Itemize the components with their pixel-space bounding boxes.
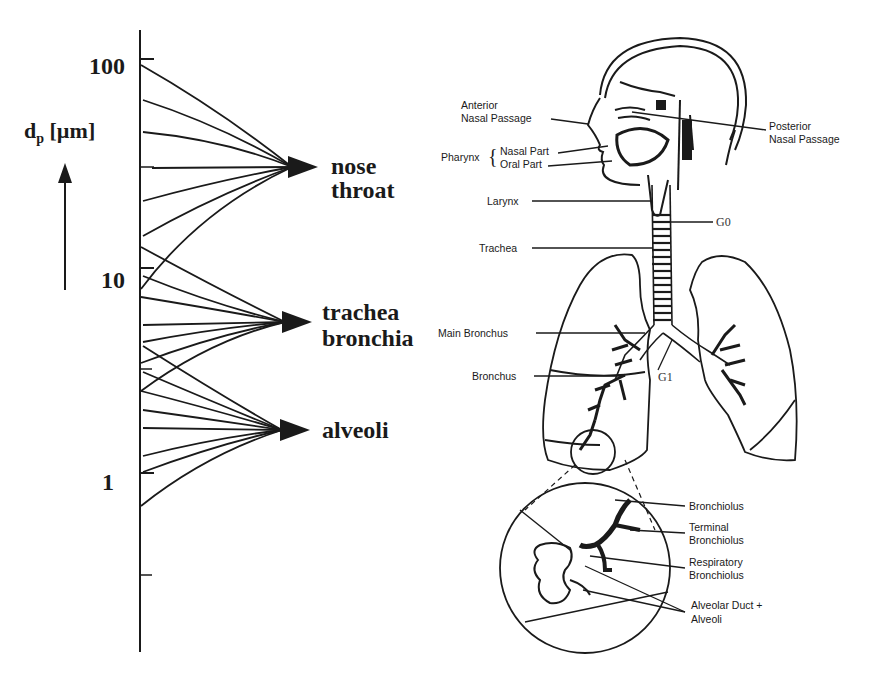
fan-alveoli — [141, 346, 282, 506]
label-oral-part: Oral Part — [500, 158, 542, 170]
label-nasal-part: Nasal Part — [500, 145, 549, 157]
region-label-bronchia: bronchia — [322, 325, 414, 351]
region-label-trachea: trachea — [322, 299, 399, 325]
region-label-alveoli: alveoli — [322, 417, 389, 443]
magnification-lines — [525, 460, 655, 530]
tick-label-10: 10 — [101, 267, 125, 293]
respiratory-deposition-diagram: 100 10 1 dp [µm] — [0, 0, 881, 677]
label-alveolar-1: Alveolar Duct + — [691, 599, 763, 611]
region-label-nose: nose — [331, 153, 377, 179]
label-anterior-2: Nasal Passage — [461, 112, 532, 124]
label-pharynx: Pharynx — [441, 151, 480, 163]
brace-icon: { — [488, 145, 498, 167]
tick-label-100: 100 — [89, 53, 125, 79]
tick-label-1: 1 — [102, 469, 114, 495]
label-bronchiolus: Bronchiolus — [689, 500, 744, 512]
fan-nose-throat — [141, 65, 292, 289]
label-g0: G0 — [716, 215, 731, 229]
label-posterior-1: Posterior — [769, 120, 812, 132]
label-main-bronchus: Main Bronchus — [438, 327, 508, 339]
size-axis: 100 10 1 dp [µm] — [24, 30, 154, 652]
head-illustration — [588, 38, 746, 216]
label-larynx: Larynx — [487, 195, 519, 207]
region-label-throat: throat — [331, 177, 395, 203]
arrowhead-alveoli — [280, 419, 310, 441]
axis-title: dp [µm] — [24, 118, 95, 146]
alveoli-magnified — [500, 483, 685, 653]
label-posterior-2: Nasal Passage — [769, 133, 840, 145]
arrowhead-trachea-bronchia — [282, 311, 312, 333]
fan-trachea-bronchia — [141, 247, 285, 391]
label-respiratory-1: Respiratory — [689, 556, 743, 568]
arrowhead-nose-throat — [288, 156, 318, 178]
trachea-illustration — [615, 185, 730, 380]
label-terminal-1: Terminal — [689, 521, 729, 533]
label-bronchus: Bronchus — [472, 370, 516, 382]
label-terminal-2: Bronchiolus — [689, 534, 744, 546]
lungs-illustration — [543, 254, 797, 474]
label-alveolar-2: Alveoli — [691, 613, 722, 625]
label-trachea: Trachea — [479, 242, 517, 254]
up-arrow-icon — [58, 163, 72, 290]
bronchial-tree — [580, 325, 745, 450]
label-anterior-1: Anterior — [461, 99, 498, 111]
label-g1: G1 — [658, 370, 673, 384]
label-respiratory-2: Bronchiolus — [689, 569, 744, 581]
